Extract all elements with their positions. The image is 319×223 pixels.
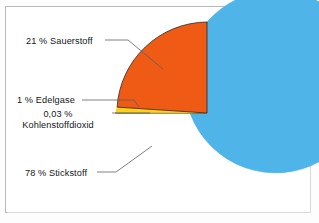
pie-slice-stickstoff[interactable] bbox=[190, 0, 319, 173]
pie-chart-figure: 21 % Sauerstoff 1 % Edelgase 0,03 % Kohl… bbox=[0, 0, 319, 223]
pie-label-kohlenstoffdioxid-value: 0,03 % bbox=[6, 109, 110, 120]
pie-label-edelgase: 1 % Edelgase bbox=[17, 95, 75, 106]
pie-label-sauerstoff: 21 % Sauerstoff bbox=[26, 36, 93, 47]
leader-line-stickstoff bbox=[97, 146, 152, 172]
pie-slice-sauerstoff[interactable] bbox=[117, 22, 207, 113]
pie-label-stickstoff: 78 % Stickstoff bbox=[25, 168, 87, 179]
pie-label-kohlenstoffdioxid-name: Kohlenstoffdioxid bbox=[6, 120, 110, 131]
pie-label-kohlenstoffdioxid: 0,03 % Kohlenstoffdioxid bbox=[6, 109, 110, 131]
